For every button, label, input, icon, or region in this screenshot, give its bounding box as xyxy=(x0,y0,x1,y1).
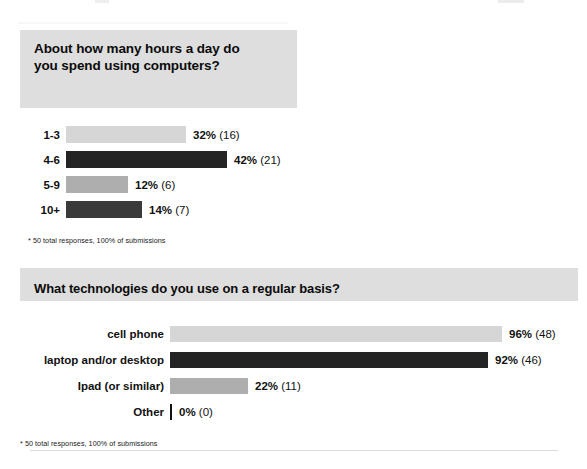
chart-header-technologies-used: What technologies do you use on a regula… xyxy=(20,268,578,301)
bar-fill xyxy=(170,378,248,394)
bar-percent: 42% xyxy=(234,154,257,166)
bar-value-label: 32% (16) xyxy=(186,129,240,141)
bar-value-label: 42% (21) xyxy=(227,154,281,166)
bar-fill xyxy=(66,151,227,168)
bar-value-label: 96% (48) xyxy=(502,328,556,340)
chart-card-technologies-used: What technologies do you use on a regula… xyxy=(20,268,578,450)
bar-row: 5-9 12% (6) xyxy=(20,172,297,197)
bar-category-label: 5-9 xyxy=(20,179,66,191)
chart-footnote: * 50 total responses, 100% of submission… xyxy=(28,236,297,245)
bar-fill xyxy=(66,126,186,143)
bar-percent: 14% xyxy=(149,204,172,216)
chart-header-hours-per-day: About how many hours a day do you spend … xyxy=(20,30,297,108)
chart-footnote: * 50 total responses, 100% of submission… xyxy=(20,439,578,448)
chart-title: What technologies do you use on a regula… xyxy=(34,281,340,296)
bar-fill xyxy=(66,201,142,218)
bar-category-label: 1-3 xyxy=(20,129,66,141)
bar-fill xyxy=(170,326,502,342)
bar-category-label: Ipad (or similar) xyxy=(20,380,170,392)
scan-artifact-top-band xyxy=(18,22,288,24)
bar-percent: 12% xyxy=(135,179,158,191)
bar-value-label: 12% (6) xyxy=(128,179,175,191)
bar-fill xyxy=(66,176,128,193)
bar-category-label: Other xyxy=(20,406,170,418)
bar-row: 4-6 42% (21) xyxy=(20,147,297,172)
bar-row: Ipad (or similar) 22% (11) xyxy=(20,373,578,399)
bar-track: 42% (21) xyxy=(66,151,297,168)
bar-value-label: 22% (11) xyxy=(248,380,301,392)
chart-title: About how many hours a day do you spend … xyxy=(34,40,244,74)
bar-count: (0) xyxy=(199,406,213,418)
bar-row: 1-3 32% (16) xyxy=(20,122,297,147)
bar-percent: 0% xyxy=(179,406,196,418)
bar-percent: 32% xyxy=(193,129,216,141)
bar-track: 32% (16) xyxy=(66,126,297,143)
page-divider xyxy=(30,450,558,451)
bar-track: 96% (48) xyxy=(170,326,578,342)
bar-value-label: 0% (0) xyxy=(172,406,213,418)
scan-artifact-top-right xyxy=(498,0,524,3)
bar-track: 22% (11) xyxy=(170,378,578,394)
bar-row: 10+ 14% (7) xyxy=(20,197,297,222)
bar-category-label: 10+ xyxy=(20,204,66,216)
bar-chart-technologies-used: cell phone 96% (48) laptop and/or deskto… xyxy=(20,301,578,448)
bar-percent: 22% xyxy=(255,380,278,392)
bar-track: 14% (7) xyxy=(66,201,297,218)
bar-count: (48) xyxy=(535,328,555,340)
bar-category-label: cell phone xyxy=(20,328,170,340)
bar-track: 12% (6) xyxy=(66,176,297,193)
bar-row: laptop and/or desktop 92% (46) xyxy=(20,347,578,373)
bar-row: cell phone 96% (48) xyxy=(20,321,578,347)
bar-count: (21) xyxy=(260,154,280,166)
bar-value-label: 92% (46) xyxy=(488,354,542,366)
bar-count: (6) xyxy=(161,179,175,191)
bar-count: (7) xyxy=(175,204,189,216)
bar-row: Other 0% (0) xyxy=(20,399,578,425)
bar-percent: 92% xyxy=(495,354,518,366)
bar-percent: 96% xyxy=(509,328,532,340)
bar-category-label: 4-6 xyxy=(20,154,66,166)
bar-chart-hours-per-day: 1-3 32% (16) 4-6 42% (21) 5-9 12% (6) 10… xyxy=(20,108,297,245)
bar-fill xyxy=(170,352,488,368)
bar-category-label: laptop and/or desktop xyxy=(20,354,170,366)
bar-count: (46) xyxy=(521,354,541,366)
bar-count: (16) xyxy=(219,129,239,141)
bar-track: 92% (46) xyxy=(170,352,578,368)
bar-track: 0% (0) xyxy=(170,404,578,420)
scan-artifact-top-left xyxy=(95,0,109,3)
chart-card-hours-per-day: About how many hours a day do you spend … xyxy=(20,30,297,250)
bar-value-label: 14% (7) xyxy=(142,204,189,216)
bar-count: (11) xyxy=(281,380,301,392)
